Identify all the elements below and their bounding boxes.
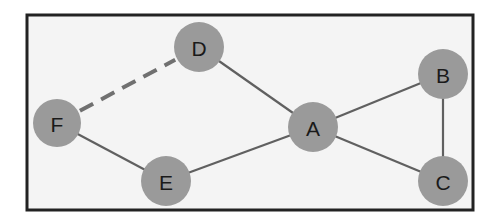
node-label: B	[436, 64, 450, 87]
node-f: F	[33, 99, 81, 147]
node-a: A	[288, 102, 338, 152]
node-label: A	[306, 117, 320, 140]
node-label: C	[435, 171, 450, 194]
node-c: C	[418, 156, 468, 206]
node-label: E	[159, 171, 173, 194]
node-label: F	[51, 113, 64, 136]
node-b: B	[418, 49, 468, 99]
graph-diagram: ABCDEF	[0, 0, 499, 223]
diagram-frame	[27, 15, 473, 210]
node-e: E	[141, 156, 191, 206]
node-label: D	[191, 37, 206, 60]
node-d: D	[174, 22, 224, 72]
